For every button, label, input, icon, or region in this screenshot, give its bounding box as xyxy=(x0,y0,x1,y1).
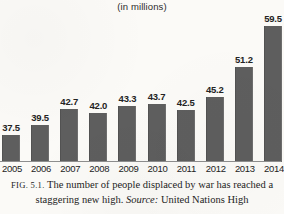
bar-column: 59.5 xyxy=(264,14,282,162)
figure-number: FIG. 5.1. xyxy=(11,180,45,190)
bar-value-label: 42.5 xyxy=(177,97,195,108)
bar-column: 42.5 xyxy=(177,14,195,162)
bar-column: 39.5 xyxy=(31,14,49,162)
bar xyxy=(206,97,224,162)
bar-column: 42.7 xyxy=(60,14,78,162)
x-axis-label: 2014 xyxy=(264,163,282,174)
bar-column: 37.5 xyxy=(2,14,20,162)
bar xyxy=(89,113,107,162)
x-axis-line xyxy=(0,161,281,162)
x-axis-label: 2008 xyxy=(89,163,107,174)
figure-container: (in millions) 37.539.542.742.043.343.742… xyxy=(0,0,284,214)
bar-column: 43.3 xyxy=(118,14,136,162)
x-axis-label: 2011 xyxy=(177,163,195,174)
plot-area: 37.539.542.742.043.343.742.545.251.259.5 xyxy=(0,14,284,162)
bar xyxy=(2,135,20,162)
bar xyxy=(31,125,49,162)
bar-value-label: 42.7 xyxy=(60,96,78,107)
bar-value-label: 43.7 xyxy=(148,91,166,102)
figure-caption: FIG. 5.1. The number of people displaced… xyxy=(6,178,278,206)
bar-value-label: 39.5 xyxy=(31,112,49,123)
bar-value-label: 59.5 xyxy=(264,13,282,24)
bar xyxy=(235,67,253,162)
bar-value-label: 37.5 xyxy=(2,122,20,133)
bar-value-label: 43.3 xyxy=(119,93,137,104)
bar-value-label: 45.2 xyxy=(206,84,224,95)
bar xyxy=(264,26,282,162)
x-axis-label: 2005 xyxy=(2,163,20,174)
bar-value-label: 42.0 xyxy=(89,100,107,111)
x-axis-label: 2006 xyxy=(31,163,49,174)
x-axis-label: 2012 xyxy=(206,163,224,174)
bar-series: 37.539.542.742.043.343.742.545.251.259.5 xyxy=(2,14,282,162)
source-label: Source: xyxy=(126,194,158,205)
bar-column: 43.7 xyxy=(148,14,166,162)
source-text: United Nations High xyxy=(161,194,249,205)
x-axis-label: 2009 xyxy=(118,163,136,174)
x-axis-tick-labels: 2005200620072008200920102011201220132014 xyxy=(2,163,282,174)
bar xyxy=(60,109,78,162)
bar-column: 45.2 xyxy=(206,14,224,162)
x-axis-label: 2010 xyxy=(148,163,166,174)
x-axis-label: 2013 xyxy=(235,163,253,174)
x-axis-label: 2007 xyxy=(60,163,78,174)
bar-value-label: 51.2 xyxy=(235,54,253,65)
bar-column: 42.0 xyxy=(89,14,107,162)
bar xyxy=(118,106,136,162)
bar xyxy=(148,104,166,162)
bar xyxy=(177,110,195,162)
chart-title: (in millions) xyxy=(0,1,284,12)
bar-column: 51.2 xyxy=(235,14,253,162)
